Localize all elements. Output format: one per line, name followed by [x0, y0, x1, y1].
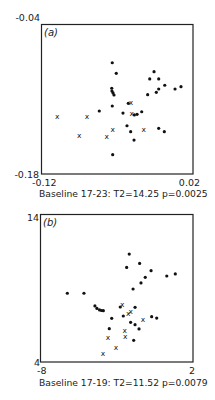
data-point-dot-b-17	[133, 306, 136, 309]
data-point-dot-b-3	[149, 269, 152, 272]
data-point-cross-a-1: x	[85, 112, 90, 121]
data-point-dot-b-1	[138, 262, 141, 265]
x-tick-left-b: -8	[37, 365, 46, 376]
data-point-dot-b-9	[66, 292, 69, 295]
data-point-dot-b-6	[174, 272, 177, 275]
data-point-dot-b-11	[93, 304, 96, 307]
data-point-cross-b-3: x	[141, 315, 146, 324]
data-point-dot-a-25	[157, 127, 160, 130]
data-point-cross-b-2: x	[128, 307, 133, 316]
data-point-cross-a-4: x	[105, 132, 110, 141]
figure: (a) -0.04 -0.18 -0.12 0.02 Baseline 17-2…	[0, 0, 215, 400]
data-point-dot-a-12	[163, 84, 166, 87]
x-tick-right-a: 0.02	[179, 177, 200, 188]
x-tick-right-b: 2	[189, 365, 195, 376]
data-point-dot-a-22	[140, 110, 143, 113]
data-point-dot-a-6	[111, 104, 114, 107]
data-point-dot-b-21	[155, 316, 158, 319]
data-point-dot-a-2	[110, 87, 113, 90]
panel-b: (b) 14 4 -8 2 Baseline 17-19: T2=11.52 p…	[27, 212, 208, 388]
data-point-dot-a-5	[112, 93, 115, 96]
data-point-dot-a-19	[121, 111, 124, 114]
data-point-cross-a-6: x	[130, 109, 135, 118]
data-point-dot-b-0	[128, 252, 131, 255]
data-point-dot-a-24	[129, 130, 132, 133]
data-point-dot-a-21	[135, 113, 138, 116]
data-point-cross-b-6: x	[106, 333, 111, 342]
data-point-dot-b-22	[129, 321, 132, 324]
y-tick-top-a: -0.04	[15, 12, 40, 23]
panel-a: (a) -0.04 -0.18 -0.12 0.02 Baseline 17-2…	[14, 12, 207, 199]
data-point-cross-a-7: x	[141, 125, 146, 134]
caption-b: Baseline 17-19: T2=11.52 p=0.0079	[39, 377, 208, 388]
data-point-dot-a-26	[163, 130, 166, 133]
data-point-cross-a-5: x	[129, 98, 134, 107]
data-point-dot-a-14	[155, 91, 158, 94]
points-a: xxxxxxxx	[55, 61, 183, 156]
data-point-dot-b-15	[102, 309, 105, 312]
data-point-dot-b-10	[82, 292, 85, 295]
data-point-cross-b-8: x	[101, 349, 106, 358]
data-point-dot-b-8	[131, 287, 134, 290]
panel-label-a: (a)	[44, 27, 58, 38]
data-point-cross-b-5: x	[123, 332, 128, 341]
data-point-dot-b-24	[137, 327, 140, 330]
data-point-cross-a-2: x	[110, 125, 115, 134]
data-point-dot-b-7	[139, 281, 142, 284]
data-point-dot-a-15	[173, 87, 176, 90]
data-point-dot-b-5	[165, 274, 168, 277]
points-b: xxxxxxxxx	[66, 252, 177, 357]
data-point-cross-a-0: x	[55, 112, 60, 121]
caption-a: Baseline 17-23: T2=14.25 p=0.0025	[39, 188, 208, 199]
data-point-dot-a-10	[148, 77, 151, 80]
data-point-dot-b-25	[108, 327, 111, 330]
data-point-dot-b-20	[150, 315, 153, 318]
data-point-cross-b-0: x	[120, 300, 125, 309]
data-point-dot-a-0	[111, 61, 114, 64]
data-point-dot-a-7	[98, 109, 101, 112]
data-point-dot-b-19	[110, 317, 113, 320]
plot-frame-a	[42, 25, 194, 175]
data-point-dot-a-17	[146, 93, 149, 96]
data-point-dot-a-16	[179, 85, 182, 88]
data-point-dot-a-8	[111, 153, 114, 156]
data-point-dot-b-2	[125, 266, 128, 269]
data-point-dot-a-11	[157, 77, 160, 80]
data-point-cross-b-7: x	[114, 343, 119, 352]
data-point-dot-b-23	[133, 323, 136, 326]
data-point-dot-a-1	[115, 72, 118, 75]
data-point-dot-b-26	[132, 339, 135, 342]
data-point-dot-a-13	[157, 87, 160, 90]
data-point-cross-a-3: x	[77, 131, 82, 140]
panel-label-b: (b)	[43, 217, 57, 228]
x-tick-left-a: -0.12	[32, 177, 57, 188]
y-tick-top-b: 14	[27, 212, 39, 223]
data-point-dot-a-27	[132, 138, 135, 141]
data-point-dot-a-9	[152, 70, 155, 73]
plot-frame-b	[41, 215, 194, 363]
data-point-dot-a-23	[125, 124, 128, 127]
data-point-dot-b-4	[144, 276, 147, 279]
data-point-dot-b-18	[122, 314, 125, 317]
